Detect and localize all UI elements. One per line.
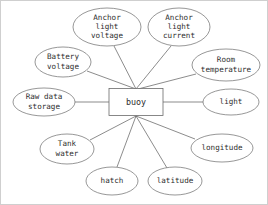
attribute-node-longitude[interactable]: longitude [191, 134, 253, 162]
attribute-node-hatch[interactable]: hatch [86, 167, 138, 195]
edge-longitude-to-buoy [136, 116, 195, 139]
entity-node-buoy[interactable]: buoy [109, 89, 163, 116]
edge-hatch-to-buoy [117, 116, 136, 167]
attribute-raw-data-storage-label: Raw datastorage [26, 92, 63, 110]
attribute-node-tank-water[interactable]: Tankwater [40, 134, 94, 164]
edge-anchor-light-current-to-buoy [136, 46, 171, 89]
attribute-hatch-label: hatch [101, 176, 124, 185]
attribute-anchor-light-current-label: Anchorlightcurrent [163, 13, 195, 40]
er-diagram-container: buoyAnchorlightvoltageAnchorlightcurrent… [0, 0, 268, 205]
attribute-node-anchor-light-current[interactable]: Anchorlightcurrent [148, 8, 210, 46]
edge-latitude-to-buoy [136, 116, 167, 168]
attribute-node-anchor-light-voltage[interactable]: Anchorlightvoltage [73, 8, 141, 46]
edge-anchor-light-voltage-to-buoy [114, 46, 136, 89]
node-group: buoyAnchorlightvoltageAnchorlightcurrent… [13, 8, 260, 195]
edge-tank-water-to-buoy [90, 116, 136, 140]
attribute-node-battery-voltage[interactable]: Batteryvoltage [35, 47, 91, 77]
attribute-node-latitude[interactable]: latitude [148, 167, 202, 195]
edge-battery-voltage-to-buoy [87, 71, 136, 89]
attribute-node-light[interactable]: light [203, 89, 259, 115]
attribute-latitude-label: latitude [157, 176, 194, 185]
attribute-node-raw-data-storage[interactable]: Raw datastorage [13, 88, 75, 116]
attribute-longitude-label: longitude [201, 143, 243, 152]
attribute-battery-voltage-label: Batteryvoltage [47, 52, 79, 70]
attribute-light-label: light [220, 97, 243, 106]
attribute-tank-water-label: Tankwater [56, 139, 79, 157]
entity-buoy-label: buoy [126, 97, 146, 107]
er-diagram-canvas: buoyAnchorlightvoltageAnchorlightcurrent… [1, 1, 267, 204]
attribute-node-room-temperature[interactable]: Roomtemperature [192, 49, 260, 81]
